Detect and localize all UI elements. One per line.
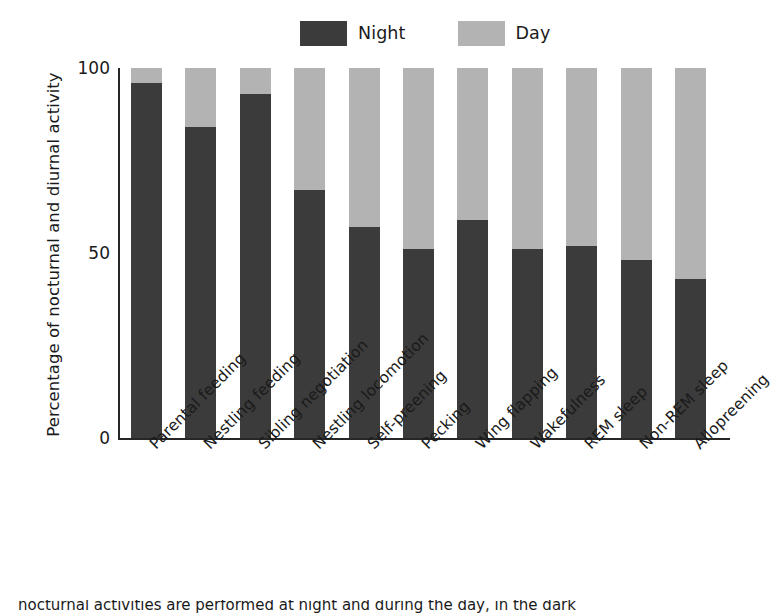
- y-tick-label-50: 50: [88, 243, 110, 263]
- bar-segment-day: [566, 68, 597, 246]
- bar-segment-day: [512, 68, 543, 249]
- chart-legend: Night Day: [300, 18, 550, 48]
- x-axis-tick-labels: Parental feedingNestling feedingSibling …: [118, 440, 758, 580]
- bar-group: [457, 68, 488, 438]
- bar-group: [131, 68, 162, 438]
- bar-segment-day: [621, 68, 652, 260]
- bar-segment-night: [131, 83, 162, 438]
- bar-segment-day: [131, 68, 162, 83]
- legend-label-day: Day: [516, 23, 551, 43]
- figure-caption: nocturnal activities are performed at ni…: [18, 600, 748, 614]
- y-tick-label-100: 100: [78, 58, 110, 78]
- legend-swatch-day: [458, 21, 505, 46]
- bar-segment-day: [294, 68, 325, 190]
- legend-swatch-night: [300, 21, 347, 46]
- bar-segment-day: [349, 68, 380, 227]
- legend-label-night: Night: [358, 23, 406, 43]
- bar-segment-day: [675, 68, 706, 279]
- legend-item-day: Day: [458, 21, 551, 46]
- y-tick-label-0: 0: [99, 428, 110, 448]
- y-axis-title: Percentage of nocturnal and diurnal acti…: [44, 55, 63, 455]
- bar-segment-day: [457, 68, 488, 220]
- bar-group: [621, 68, 652, 438]
- legend-item-night: Night: [300, 21, 406, 46]
- bar-segment-day: [240, 68, 271, 94]
- bar-segment-day: [185, 68, 216, 127]
- figure-caption-text: nocturnal activities are performed at ni…: [18, 600, 748, 614]
- bar-segment-day: [403, 68, 434, 249]
